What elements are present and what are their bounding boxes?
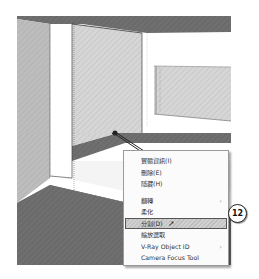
menu-item-flip[interactable]: 翻轉› [124,195,228,207]
sketchup-viewport[interactable] [17,16,231,133]
menu-item-zoom-selection[interactable]: 縮放選取 [124,229,228,241]
menu-item-camera-focus-tool[interactable]: Camera Focus Tool [124,252,228,264]
mouse-pointer-icon: ➚ [168,219,175,229]
menu-item-vray-object-id[interactable]: V-Ray Object ID› [124,241,228,253]
submenu-arrow-icon: › [220,195,222,207]
menu-item-erase[interactable]: 刪除(E) [124,167,228,179]
menu-item-divide[interactable]: 分割(D)➚ [125,218,227,230]
submenu-arrow-icon: › [220,241,222,253]
menu-item-soften[interactable]: 柔化 [124,206,228,218]
3d-model-scene[interactable] [17,16,231,133]
menu-item-entity-info[interactable]: 實體資訊(I) [124,155,228,167]
menu-item-hide[interactable]: 隱藏(H) [124,178,228,190]
step-number-callout: 12 [228,204,247,223]
context-menu: 實體資訊(I) 刪除(E) 隱藏(H) 翻轉› 柔化 分割(D)➚ 縮放選取 V… [123,150,229,266]
